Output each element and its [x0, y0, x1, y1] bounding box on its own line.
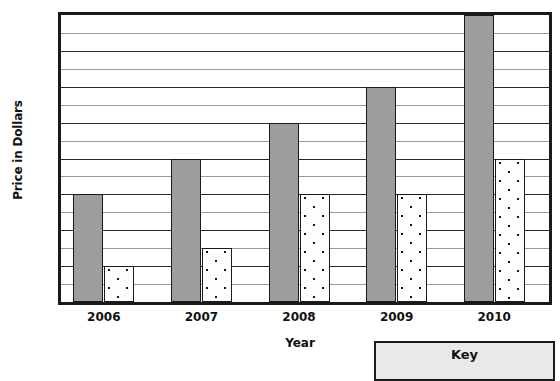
bar-2006-solid: [73, 194, 103, 302]
x-tick-label-2010: 2010: [449, 310, 539, 324]
legend-key-box: Key: [374, 341, 555, 381]
bar-2008-solid: [269, 123, 299, 302]
legend-title: Key: [376, 347, 553, 362]
x-tick-label-2007: 2007: [156, 310, 246, 324]
bar-2009-solid: [366, 87, 396, 302]
bar-2008-dotted: [300, 194, 330, 302]
plot-inner: [61, 15, 549, 302]
bar-2006-dotted: [104, 266, 134, 302]
x-tick-label-2009: 2009: [352, 310, 442, 324]
x-axis-title: Year: [255, 336, 345, 350]
bar-2009-dotted: [397, 194, 427, 302]
bar-2010-solid: [464, 15, 494, 302]
plot-area: [58, 12, 552, 305]
y-axis-title: Price in Dollars: [11, 70, 25, 230]
bar-2010-dotted: [495, 159, 525, 303]
x-tick-label-2006: 2006: [59, 310, 149, 324]
x-tick-label-2008: 2008: [254, 310, 344, 324]
bar-2007-dotted: [202, 248, 232, 302]
bar-2007-solid: [171, 159, 201, 303]
